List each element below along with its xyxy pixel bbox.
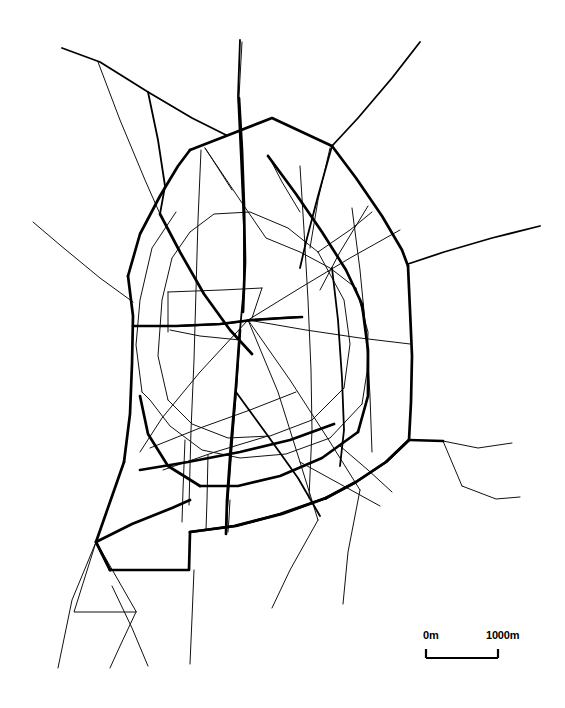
- road-network-svg: [0, 0, 565, 708]
- scale-label-max: 1000m: [486, 629, 519, 641]
- map-scale-bar: 0m 1000m: [418, 629, 548, 669]
- scale-bar-labels: 0m 1000m: [418, 629, 548, 645]
- scale-bar-bracket: [426, 649, 498, 658]
- map-background: [0, 0, 565, 708]
- scale-bar-rule: [418, 647, 538, 663]
- road-network-map: 0m 1000m: [0, 0, 565, 708]
- scale-label-min: 0m: [423, 629, 439, 641]
- arterial-se-link: [409, 440, 443, 441]
